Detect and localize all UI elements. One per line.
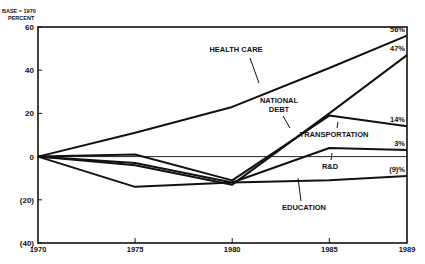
x-tick-label: 1985 [321,245,338,254]
y-tick-label: 40 [25,66,34,75]
chart-labels: 56%47%14%3%(9)%HEALTH CARENATIONALDEBTTR… [209,25,405,212]
end-label-education: (9)% [389,165,405,174]
label-rd-leader [331,153,332,160]
end-label-transportation: 14% [390,115,405,124]
y-axis-label-line1: BASE = 1970 [2,8,36,14]
y-axis-label-line2: PERCENT [8,15,35,21]
end-label-health-care: 56% [390,25,405,34]
y-tick-label: (20) [20,196,35,205]
label-health-care-leader [250,58,259,83]
label-transportation-leader [337,122,338,128]
chart-lines [38,36,407,187]
end-label-r-d: 3% [394,139,405,148]
x-tick-label: 1975 [127,245,144,254]
x-tick-label: 1989 [399,245,416,254]
label-transportation: TRANSPORTATION [300,130,369,139]
label-health-care: HEALTH CARE [209,45,262,54]
x-tick-label: 1970 [30,245,47,254]
x-tick-label: 1980 [224,245,241,254]
series-line-national-debt [38,55,407,185]
end-label-national-debt: 47% [390,44,405,53]
label-education: EDUCATION [282,203,326,212]
line-chart: 6040200(20)(40)19701975198019851989BASE … [0,0,425,264]
undefined: NATIONAL [260,96,299,105]
y-tick-label: 60 [25,23,34,32]
y-tick-label: 20 [25,109,34,118]
label-rd: R&D [322,162,339,171]
y-tick-label: 0 [30,153,35,162]
label-national-debt: DEBT [269,105,290,114]
label-national-debt-leader [283,116,290,128]
